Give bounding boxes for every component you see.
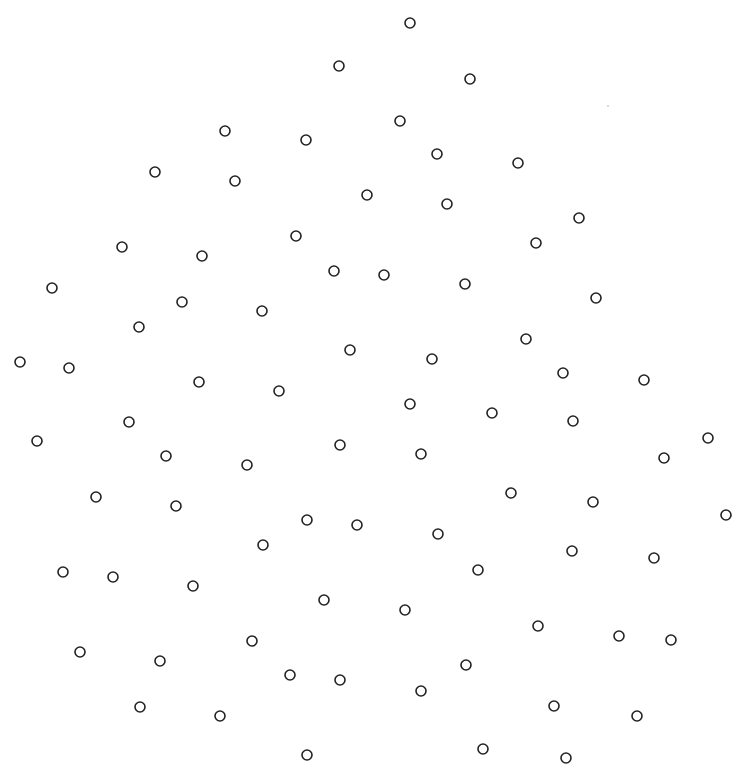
circle-dot [135,702,145,712]
dot-field [0,0,753,775]
circle-dot [91,492,101,502]
circle-dot [301,135,311,145]
circle-dot [345,345,355,355]
circle-dot [460,279,470,289]
circle-dot [258,540,268,550]
circle-dot [614,631,624,641]
circle-dot [274,386,284,396]
circle-dot [362,190,372,200]
circle-dot [427,354,437,364]
circle-dot [442,199,452,209]
circle-dot [220,126,230,136]
circle-dot [329,266,339,276]
circle-dot [649,553,659,563]
circle-dot [215,711,225,721]
speck-mark [607,105,608,106]
circle-dot [335,675,345,685]
circle-dot [124,417,134,427]
circle-dot [285,670,295,680]
circle-dot [591,293,601,303]
circle-dot [659,453,669,463]
circle-dot [75,647,85,657]
circle-dot [533,621,543,631]
circle-dot [15,357,25,367]
circle-dot [32,436,42,446]
circle-dot [117,242,127,252]
circle-dot [506,488,516,498]
circle-dot [432,149,442,159]
circle-dot [134,322,144,332]
circle-dot [703,433,713,443]
dot-pattern-figure [0,0,753,775]
circle-dot [242,460,252,470]
circle-dot [58,567,68,577]
circle-dot [257,306,267,316]
circle-dot [461,660,471,670]
circle-dot [405,18,415,28]
circle-dot [247,636,257,646]
circle-dot [416,449,426,459]
circle-dot [334,61,344,71]
circle-dot [319,595,329,605]
circle-dot [561,753,571,763]
circle-dot [416,686,426,696]
circle-dot [549,701,559,711]
circle-dot [721,510,731,520]
circle-dot [230,176,240,186]
circle-dot [291,231,301,241]
circle-dot [161,451,171,461]
circle-dot [302,750,312,760]
circle-dot [335,440,345,450]
circle-dot [558,368,568,378]
circle-dot [352,520,362,530]
circle-dot [639,375,649,385]
circle-dot [568,416,578,426]
circle-dot [194,377,204,387]
circle-dot [188,581,198,591]
circle-dot [574,213,584,223]
circle-dot [150,167,160,177]
circle-dot [47,283,57,293]
circle-dot [64,363,74,373]
circle-dot [302,515,312,525]
circle-dot [395,116,405,126]
circle-dot [478,744,488,754]
circle-dot [588,497,598,507]
circle-dot [400,605,410,615]
circle-dot [177,297,187,307]
circle-dot [632,711,642,721]
circle-dot [108,572,118,582]
circle-dot [473,565,483,575]
circle-dot [433,529,443,539]
circle-dot [666,635,676,645]
circle-dot [405,399,415,409]
circle-dot [521,334,531,344]
circle-dot [465,74,475,84]
circle-dot [155,656,165,666]
circle-dot [531,238,541,248]
circle-dot [379,270,389,280]
circle-dot [567,546,577,556]
circle-dot [513,158,523,168]
circle-dot [487,408,497,418]
circle-dot [197,251,207,261]
circle-dot [171,501,181,511]
